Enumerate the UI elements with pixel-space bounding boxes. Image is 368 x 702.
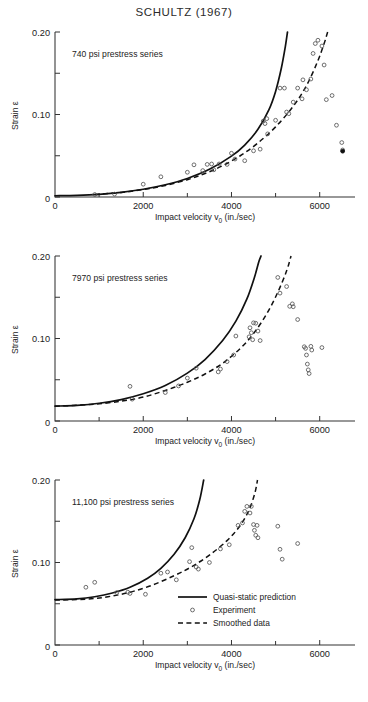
experiment-point	[301, 78, 305, 82]
x-tick-label: 4000	[221, 649, 241, 659]
x-tick-label: 0	[52, 201, 57, 211]
experiment-point	[280, 557, 284, 561]
x-tick-label: 2000	[133, 201, 153, 211]
experiment-point	[230, 151, 234, 155]
x-title-units: (in./sec)	[225, 436, 256, 446]
panel-1-points	[93, 38, 345, 196]
experiment-point	[219, 547, 223, 551]
x-tick-label: 6000	[309, 201, 329, 211]
experiment-point	[278, 291, 282, 295]
panel-3-y-ticks	[55, 480, 60, 645]
panel-2-ylabel-top: 0.20	[32, 252, 50, 262]
experiment-point	[258, 339, 262, 343]
experiment-point	[254, 533, 258, 537]
panel-2-ylabel-mid: 0.10	[32, 334, 50, 344]
experiment-point	[296, 318, 300, 322]
experiment-point	[188, 560, 192, 564]
experiment-point-filled	[341, 149, 345, 153]
panel-3-y-axis-title: Strain ε	[10, 549, 20, 578]
panel-2-x-axis-title: Impact velocity v0 (in./sec)	[155, 436, 255, 448]
x-tick-label: 2000	[133, 649, 153, 659]
panel-2-series-label: 7970 psi prestress series	[72, 273, 168, 283]
panel-3-series-label: 11,100 psi prestress series	[72, 497, 174, 507]
experiment-point	[296, 86, 300, 90]
experiment-point	[174, 578, 178, 582]
svg-text:Impact velocity v0 (in./sec): Impact velocity v0 (in./sec)	[155, 660, 255, 672]
x-tick-label: 4000	[221, 201, 241, 211]
x-tick-label: 0	[52, 649, 57, 659]
x-tick-label: 2000	[133, 425, 153, 435]
svg-text:Impact velocity v0 (in./sec): Impact velocity v0 (in./sec)	[155, 212, 255, 224]
experiment-point	[309, 77, 313, 81]
x-tick-label: 6000	[309, 425, 329, 435]
experiment-point	[245, 505, 249, 509]
panel-740-psi: 740 psi prestress series 0.20 0.10 0 Str…	[0, 0, 368, 234]
experiment-point	[93, 580, 97, 584]
experiment-point	[256, 329, 260, 333]
experiment-point	[296, 542, 300, 546]
experiment-point	[141, 182, 145, 186]
legend-label-experiment: Experiment	[213, 605, 256, 615]
experiment-point	[300, 97, 304, 101]
experiment-point	[234, 334, 238, 338]
legend-label-smoothed: Smoothed data	[213, 618, 270, 628]
experiment-point	[340, 141, 344, 145]
panel-1-y-axis-title: Strain ε	[10, 101, 20, 130]
legend-label-quasi-static: Quasi-static prediction	[213, 592, 296, 602]
experiment-point	[208, 561, 212, 565]
experiment-point	[252, 149, 256, 153]
experiment-point	[265, 117, 269, 121]
panel-3-ylabel-top: 0.20	[32, 476, 50, 486]
experiment-point	[276, 276, 280, 280]
experiment-point	[285, 285, 289, 289]
x-tick-label: 6000	[309, 649, 329, 659]
panel-11100-psi: 11,100 psi prestress series 0.20 0.10 0 …	[0, 468, 368, 702]
panel-2-x-ticks	[99, 416, 320, 421]
panel-1-ylabel-mid: 0.10	[32, 110, 50, 120]
experiment-point	[185, 376, 189, 380]
experiment-point	[243, 159, 247, 163]
panel-3-ylabel-mid: 0.10	[32, 558, 50, 568]
experiment-point	[305, 362, 309, 366]
panel-1-plot: 740 psi prestress series 0.20 0.10 0 Str…	[0, 0, 368, 234]
legend-circle-icon	[191, 608, 195, 612]
experiment-point	[251, 338, 255, 342]
x-tick-label: 0	[52, 425, 57, 435]
panel-1-x-axis-title: Impact velocity v0 (in./sec)	[155, 212, 255, 224]
experiment-point	[305, 88, 309, 92]
experiment-point	[159, 571, 163, 575]
experiment-point	[210, 162, 214, 166]
figure-schultz-1967: SCHULTZ (1967) 740 psi prestress series …	[0, 0, 368, 702]
experiment-point	[305, 353, 309, 357]
experiment-point	[84, 585, 88, 589]
experiment-point	[258, 147, 262, 151]
panel-1-series-label: 740 psi prestress series	[72, 49, 163, 59]
experiment-point	[330, 94, 334, 98]
experiment-point	[144, 592, 148, 596]
panel-2-x-tick-labels: 0200040006000	[52, 425, 329, 435]
experiment-point	[248, 511, 252, 515]
panel-3-points	[84, 505, 300, 597]
experiment-point	[316, 38, 320, 42]
experiment-point	[291, 100, 295, 104]
svg-text:Impact velocity v0 (in./sec): Impact velocity v0 (in./sec)	[155, 436, 255, 448]
experiment-point	[306, 368, 310, 372]
experiment-point	[309, 344, 313, 348]
panel-3-plot: 11,100 psi prestress series 0.20 0.10 0 …	[0, 468, 368, 702]
experiment-point	[313, 42, 317, 46]
x-title-units: (in./sec)	[225, 660, 256, 670]
panel-2-y-axis-title: Strain ε	[10, 325, 20, 354]
x-title-units: (in./sec)	[225, 212, 256, 222]
experiment-point	[335, 123, 339, 127]
experiment-point	[192, 163, 196, 167]
experiment-point	[320, 346, 324, 350]
experiment-point	[278, 547, 282, 551]
experiment-point	[255, 523, 259, 527]
experiment-point	[243, 509, 247, 513]
panel-2-plot: 7970 psi prestress series 0.20 0.10 0 St…	[0, 234, 368, 468]
experiment-point	[128, 384, 132, 388]
panel-2-points	[128, 276, 324, 401]
panel-1-ylabel-zero: 0	[45, 194, 50, 204]
panel-3-x-tick-labels: 0200040006000	[52, 649, 329, 659]
panel-2-y-ticks	[55, 256, 60, 421]
